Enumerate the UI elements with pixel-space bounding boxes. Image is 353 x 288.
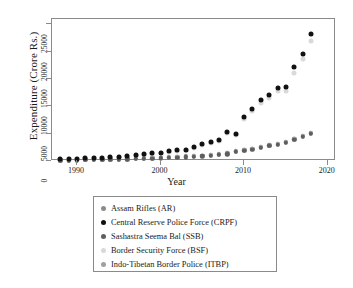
data-point-crpf [200, 142, 205, 147]
data-point-ssb [275, 142, 279, 146]
legend-item[interactable]: Central Reserve Police Force (CRPF) [101, 215, 276, 229]
data-point-crpf [242, 115, 247, 120]
data-point-ssb [167, 156, 171, 160]
x-tick-mark [327, 160, 328, 165]
data-point-crpf [83, 156, 88, 161]
legend-label: Sashastra Seema Bal (SSB) [111, 232, 203, 241]
data-point-crpf [292, 65, 297, 70]
x-tick-label: 2010 [223, 166, 263, 175]
data-point-crpf [300, 51, 305, 56]
data-points-layer [52, 19, 334, 159]
data-point-bsf [300, 57, 305, 62]
legend-marker-itbp [101, 262, 106, 267]
data-point-ssb [250, 147, 254, 151]
data-point-ssb [142, 157, 146, 161]
data-point-crpf [208, 140, 213, 145]
data-point-crpf [58, 157, 63, 162]
legend: Assam Rifles (AR)Central Reserve Police … [93, 196, 277, 272]
data-point-ssb [234, 150, 238, 154]
data-point-ssb [200, 154, 204, 158]
data-point-ssb [175, 155, 179, 159]
data-point-bsf [308, 38, 313, 43]
data-point-crpf [150, 151, 155, 156]
data-point-crpf [91, 155, 96, 160]
data-point-ssb [217, 153, 221, 157]
legend-label: Central Reserve Police Force (CRPF) [111, 218, 237, 227]
x-tick-mark [160, 160, 161, 165]
legend-label: Assam Rifles (AR) [111, 204, 175, 213]
legend-label: Border Security Force (BSF) [111, 246, 208, 255]
legend-item[interactable]: Border Security Force (BSF) [101, 243, 276, 257]
x-tick-label: 1990 [56, 166, 96, 175]
legend-marker-ssb [101, 234, 106, 239]
data-point-crpf [250, 106, 255, 111]
data-point-crpf [192, 145, 197, 150]
data-point-crpf [258, 98, 263, 103]
data-point-crpf [141, 152, 146, 157]
data-point-ssb [309, 131, 313, 135]
x-tick-label: 2000 [140, 166, 180, 175]
data-point-crpf [217, 138, 222, 143]
data-point-crpf [166, 149, 171, 154]
data-point-ssb [183, 155, 187, 159]
data-point-crpf [275, 85, 280, 90]
data-point-crpf [108, 155, 113, 160]
x-tick-mark [76, 160, 77, 165]
x-tick-mark [243, 160, 244, 165]
legend-item[interactable]: Indo-Tibetan Border Police (ITBP) [101, 257, 276, 271]
legend-label: Indo-Tibetan Border Police (ITBP) [111, 260, 229, 269]
data-point-crpf [308, 32, 313, 37]
data-point-ssb [292, 137, 296, 141]
data-point-crpf [175, 148, 180, 153]
legend-item[interactable]: Sashastra Seema Bal (SSB) [101, 229, 276, 243]
data-point-crpf [125, 154, 130, 159]
data-point-ssb [259, 145, 263, 149]
y-axis-title: Expenditure (Crore Rs.) [27, 1, 39, 171]
data-point-crpf [133, 153, 138, 158]
x-tick-label: 2020 [307, 166, 347, 175]
data-point-crpf [267, 93, 272, 98]
y-tick-mark [46, 160, 51, 161]
data-point-crpf [100, 155, 105, 160]
data-point-crpf [158, 150, 163, 155]
chart-figure: Expenditure (Crore Rs.) 0500010000150002… [0, 0, 353, 288]
data-point-ssb [209, 153, 213, 157]
data-point-ssb [242, 148, 246, 152]
data-point-ssb [267, 144, 271, 148]
data-point-crpf [183, 147, 188, 152]
y-tick-label: 25000 [40, 22, 49, 66]
data-point-ssb [150, 156, 154, 160]
data-point-crpf [116, 154, 121, 159]
data-point-ssb [192, 155, 196, 159]
data-point-crpf [66, 156, 71, 161]
data-point-bsf [292, 70, 297, 75]
plot-area [51, 18, 335, 160]
data-point-crpf [283, 85, 288, 90]
legend-marker-crpf [101, 220, 106, 225]
legend-marker-ar [101, 206, 106, 211]
legend-item[interactable]: Assam Rifles (AR) [101, 201, 276, 215]
data-point-ssb [225, 152, 229, 156]
legend-marker-bsf [101, 248, 106, 253]
x-axis-title: Year [0, 176, 353, 187]
data-point-ssb [284, 141, 288, 145]
data-point-crpf [225, 129, 230, 134]
data-point-ssb [300, 135, 304, 139]
data-point-crpf [233, 131, 238, 136]
